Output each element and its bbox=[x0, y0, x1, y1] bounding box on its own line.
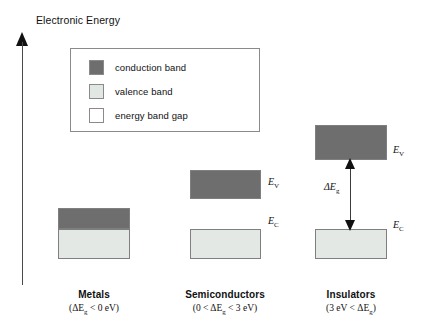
band-gap-arrow-up-icon bbox=[345, 158, 355, 169]
band-structure-diagram: Electronic Energy conduction band valenc… bbox=[0, 0, 427, 321]
band-gap-arrow-down-icon bbox=[345, 220, 355, 231]
metals-conduction-band bbox=[58, 208, 130, 229]
legend-item-label: energy band gap bbox=[115, 110, 188, 121]
caption-title: Insulators bbox=[276, 288, 426, 301]
legend-item-label: valence band bbox=[115, 86, 173, 97]
caption-title: Metals bbox=[19, 288, 169, 301]
legend-item-label: conduction band bbox=[115, 62, 186, 73]
legend-item-energy-band-gap: energy band gap bbox=[89, 107, 188, 123]
semiconductors-conduction-band bbox=[190, 170, 261, 199]
energy-axis-line bbox=[22, 42, 23, 285]
valence-band-swatch bbox=[89, 84, 104, 99]
caption-condition: (ΔEg < 0 eV) bbox=[19, 301, 169, 319]
insulators-ev-label: EV bbox=[393, 144, 404, 158]
band-gap-label: ΔEg bbox=[322, 181, 341, 195]
legend-item-valence-band: valence band bbox=[89, 83, 173, 99]
semiconductors-ec-label: EC bbox=[268, 215, 279, 229]
energy-band-gap-swatch bbox=[89, 108, 104, 123]
insulators-conduction-band bbox=[315, 125, 387, 160]
semiconductors-ev-label: EV bbox=[268, 176, 279, 190]
axis-label: Electronic Energy bbox=[36, 14, 120, 26]
caption-condition: (3 eV < ΔEg) bbox=[276, 301, 426, 319]
caption-insulators: Insulators (3 eV < ΔEg) bbox=[276, 288, 426, 319]
insulators-ec-label: EC bbox=[393, 219, 404, 233]
legend-item-conduction-band: conduction band bbox=[89, 59, 186, 75]
conduction-band-swatch bbox=[89, 60, 104, 75]
insulators-valence-band bbox=[315, 229, 387, 259]
semiconductors-valence-band bbox=[190, 229, 261, 259]
legend: conduction band valence band energy band… bbox=[70, 48, 260, 132]
band-gap-arrow-line bbox=[350, 160, 351, 229]
caption-metals: Metals (ΔEg < 0 eV) bbox=[19, 288, 169, 319]
metals-valence-band bbox=[58, 229, 130, 259]
